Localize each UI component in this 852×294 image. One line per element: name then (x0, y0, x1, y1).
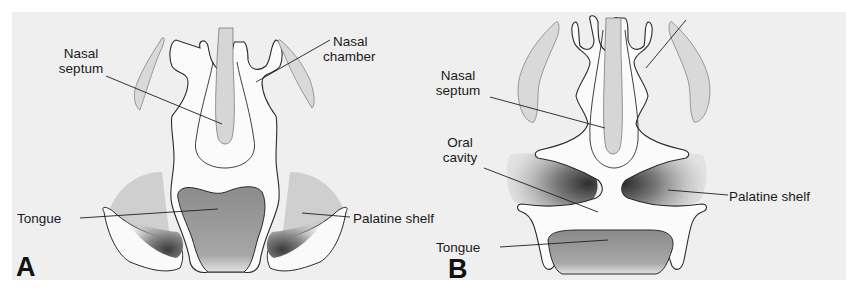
label-a-nasal-chamber-line1: Nasal (323, 34, 376, 49)
label-b-nasal-septum-line2: septum (424, 83, 492, 98)
panel-letter-a: A (16, 254, 36, 281)
label-a-tongue: Tongue (17, 211, 61, 226)
panel-a-nasal-septum (216, 28, 235, 144)
panel-b-drawing (507, 16, 710, 274)
label-a-palatine-shelf: Palatine shelf (353, 211, 434, 226)
panel-b-concha-left (518, 22, 559, 122)
label-a-nasal-chamber-line2: chamber (323, 49, 376, 64)
label-a-nasal-septum: Nasal septum (46, 46, 116, 76)
label-b-palatine-shelf: Palatine shelf (729, 189, 810, 204)
label-a-nasal-septum-line2: septum (46, 61, 116, 76)
panel-a-concha-right (278, 40, 314, 108)
label-b-nasal-septum-line1: Nasal (424, 68, 492, 83)
panel-b-nasal-septum (604, 18, 623, 154)
label-a-nasal-chamber: Nasal chamber (323, 34, 376, 64)
panel-b-tongue (548, 230, 673, 274)
leader-a-nasal-chamber (256, 40, 330, 82)
palate-development-diagram (0, 0, 852, 294)
panel-a-drawing (103, 28, 347, 273)
label-b-oral-cavity-line2: cavity (432, 150, 488, 165)
panel-b-concha-right (669, 22, 710, 122)
label-b-nasal-septum: Nasal septum (424, 68, 492, 98)
label-b-oral-cavity-line1: Oral (432, 135, 488, 150)
label-b-tongue: Tongue (436, 240, 480, 255)
label-b-oral-cavity: Oral cavity (432, 135, 488, 165)
panel-a-concha-left (134, 38, 164, 110)
panel-letter-b: B (448, 256, 468, 283)
label-a-nasal-septum-line1: Nasal (46, 46, 116, 61)
